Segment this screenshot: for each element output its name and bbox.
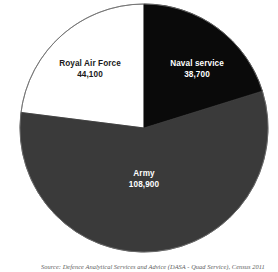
pie-chart-svg [0, 0, 278, 272]
chart-source-note: Source: Defence Analytical Services and … [41, 263, 278, 270]
pie-slice-royal-air-force[interactable] [21, 4, 144, 128]
pie-chart-figure: Naval service 38,700 Royal Air Force 44,… [0, 0, 278, 272]
